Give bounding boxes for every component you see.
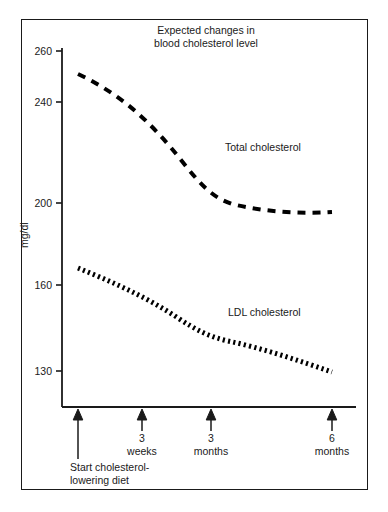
chart-title: Expected changes inblood cholesterol lev… [131,24,281,50]
x-tick-label-3-months: 3months [176,432,246,457]
x-tick-label-3-weeks: 3weeks [107,432,177,457]
y-tick-label-130: 130 [22,365,52,377]
x-tick-3-weeks-line1: 3 [139,432,145,444]
x-tick-3-weeks-line2: weeks [127,445,157,457]
start-diet-annotation: Start cholesterol-lowering diet [70,461,149,486]
start-diet-annotation-line1: Start cholesterol- [70,461,149,473]
x-tick-label-6-months: 6months [297,432,367,457]
series-label-ldl-cholesterol: LDL cholesterol [228,306,301,319]
start-diet-annotation-line2: lowering diet [70,474,129,486]
x-tick-3-months-line2: months [194,445,228,457]
y-tick-label-240: 240 [22,96,52,108]
figure-border [21,19,368,490]
figure-container: Expected changes inblood cholesterol lev… [0,0,388,512]
y-axis-label: mg/dl [18,205,31,265]
x-tick-6-months-line2: months [315,445,349,457]
chart-title-line1: Expected changes in [157,24,254,36]
chart-title-line2: blood cholesterol level [154,37,258,49]
y-tick-label-260: 260 [22,45,52,57]
y-tick-label-200: 200 [22,197,52,209]
x-tick-6-months-line1: 6 [329,432,335,444]
series-label-total-cholesterol: Total cholesterol [225,141,301,154]
y-tick-label-160: 160 [22,279,52,291]
x-tick-3-months-line1: 3 [208,432,214,444]
